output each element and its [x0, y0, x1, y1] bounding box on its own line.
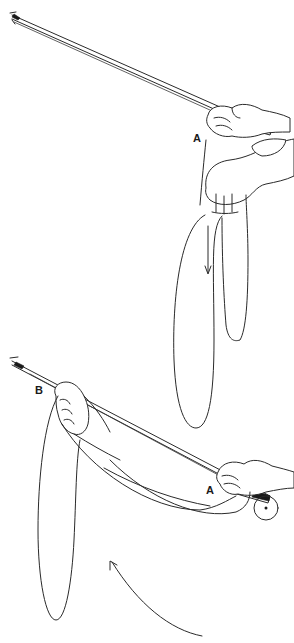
label-a-bottom: A [206, 484, 214, 496]
line-segment-top [200, 140, 206, 205]
illustration-canvas [0, 0, 294, 643]
label-b-bottom: B [35, 384, 43, 396]
illustration: A B A [0, 0, 294, 643]
top-panel [10, 12, 294, 428]
loop-small-top [222, 195, 248, 341]
line-hand-top [206, 139, 294, 214]
bottom-panel [10, 357, 294, 636]
hand-bottom-b [55, 382, 210, 506]
arrow-down-icon [205, 226, 211, 274]
hand-top [207, 104, 290, 137]
hand-bottom-a [217, 460, 294, 495]
label-a-top: A [193, 132, 201, 144]
loop-large-top [174, 215, 222, 428]
curved-arrow-icon [110, 561, 202, 636]
